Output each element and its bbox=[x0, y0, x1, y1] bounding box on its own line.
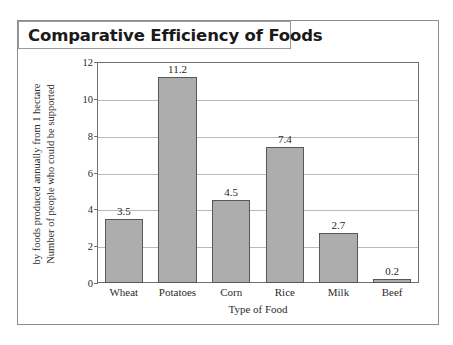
y-axis-tick-label: 10 bbox=[68, 93, 93, 104]
bar-value-label: 3.5 bbox=[105, 205, 144, 217]
x-axis-tick-label: Rice bbox=[258, 286, 312, 298]
chart-title: Comparative Efficiency of Foods bbox=[19, 26, 323, 45]
y-axis-tick-label: 0 bbox=[68, 278, 93, 289]
bar-value-label: 4.5 bbox=[212, 186, 251, 198]
x-axis-tick-label: Wheat bbox=[97, 286, 151, 298]
bar-value-label: 7.4 bbox=[266, 133, 305, 145]
y-axis-tick-label: 6 bbox=[68, 167, 93, 178]
bar[interactable] bbox=[319, 233, 358, 283]
x-axis-tick-labels: WheatPotatoesCornRiceMilkBeef bbox=[97, 286, 419, 302]
y-axis-tick-label: 12 bbox=[68, 57, 93, 68]
bars-layer: 3.511.24.57.42.70.2 bbox=[97, 62, 419, 283]
y-axis-title: Number of people who could be supported … bbox=[28, 60, 58, 288]
bar-group[interactable]: 11.2 bbox=[158, 62, 197, 283]
bar-group[interactable]: 4.5 bbox=[212, 62, 251, 283]
x-axis-tick-label: Beef bbox=[365, 286, 419, 298]
x-axis-tick-label: Corn bbox=[204, 286, 258, 298]
bar[interactable] bbox=[158, 77, 197, 283]
bar-value-label: 2.7 bbox=[319, 219, 358, 231]
bar[interactable] bbox=[105, 219, 144, 283]
chart-title-box: Comparative Efficiency of Foods bbox=[18, 21, 291, 49]
x-axis-title: Type of Food bbox=[97, 303, 419, 315]
x-axis-tick-label: Milk bbox=[312, 286, 366, 298]
y-axis-tick-labels: 024681012 bbox=[68, 62, 93, 283]
bar[interactable] bbox=[212, 200, 251, 283]
bar-group[interactable]: 0.2 bbox=[373, 62, 412, 283]
y-axis-tick-label: 8 bbox=[68, 130, 93, 141]
bar-group[interactable]: 7.4 bbox=[266, 62, 305, 283]
y-axis-tick-label: 4 bbox=[68, 204, 93, 215]
bar-group[interactable]: 2.7 bbox=[319, 62, 358, 283]
bar-group[interactable]: 3.5 bbox=[105, 62, 144, 283]
bar[interactable] bbox=[266, 147, 305, 283]
y-axis-tick-mark bbox=[94, 283, 98, 284]
y-axis-tick-label: 2 bbox=[68, 241, 93, 252]
bar-value-label: 11.2 bbox=[158, 63, 197, 75]
bar[interactable] bbox=[373, 279, 412, 283]
y-axis-title-line-1: Number of people who could be supported bbox=[44, 84, 57, 264]
y-axis-title-line-2: by foods produced annually from 1 hectar… bbox=[30, 84, 43, 265]
bar-value-label: 0.2 bbox=[373, 265, 412, 277]
x-axis-tick-label: Potatoes bbox=[151, 286, 205, 298]
